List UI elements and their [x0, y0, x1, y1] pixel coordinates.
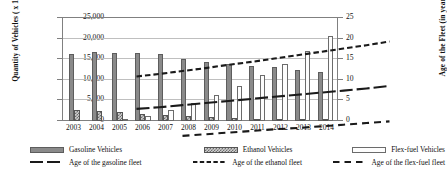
legend-label-ethanol-fleet-age: Age of the ethanol fleet — [232, 158, 302, 167]
y-axis-left-title: Quantity of Vehicles ( x 10^3 ) — [11, 0, 20, 88]
legend-item-flexfuel-fleet-age[interactable]: Age of the flex-fuel fleet — [333, 158, 445, 167]
plot-area — [62, 17, 338, 121]
x-tick-2012: 2012 — [269, 123, 292, 132]
bar-ethanol-2004 — [97, 111, 102, 121]
x-tick-2007: 2007 — [154, 123, 177, 132]
x-tick-2013: 2013 — [292, 123, 315, 132]
bar-ethanol-2003 — [74, 110, 79, 121]
trend-line-age-of-the-ethanol-fleet — [137, 41, 390, 76]
legend-item-flexfuel-vehicles[interactable]: Flex-fuel Vehicles — [352, 145, 445, 154]
bar-group-2004 — [86, 17, 109, 121]
legend-item-ethanol-vehicles[interactable]: Ethanol Vehicles — [204, 145, 352, 154]
legend-label-flexfuel-fleet-age: Age of the flex-fuel fleet — [372, 158, 445, 167]
legend-label-gasoline-fleet-age: Age of the gasoline fleet — [69, 158, 142, 167]
legend-swatch-flexfuel-icon — [352, 147, 386, 153]
x-tick-2008: 2008 — [177, 123, 200, 132]
bar-group-2003 — [63, 17, 86, 121]
legend-item-gasoline-vehicles[interactable]: Gasoline Vehicles — [30, 145, 204, 154]
y-axis-right-title: Age of the Fleet (in years) — [438, 0, 447, 89]
x-tick-2006: 2006 — [131, 123, 154, 132]
x-tick-2014: 2014 — [315, 123, 338, 132]
x-tick-2010: 2010 — [223, 123, 246, 132]
trend-line-age-of-the-gasoline-fleet — [137, 86, 390, 109]
x-tick-2009: 2009 — [200, 123, 223, 132]
legend-line-gasoline-icon — [30, 159, 64, 165]
x-tick-2004: 2004 — [85, 123, 108, 132]
x-tick-2011: 2011 — [246, 123, 269, 132]
legend-swatch-gasoline-icon — [30, 147, 64, 153]
legend-item-ethanol-fleet-age[interactable]: Age of the ethanol fleet — [193, 158, 332, 167]
legend-line-ethanol-icon — [193, 159, 227, 165]
x-axis-labels: 2003200420052006200720082009201020112012… — [62, 123, 338, 132]
legend-item-gasoline-fleet-age[interactable]: Age of the gasoline fleet — [30, 158, 193, 167]
y-right-tick-25: 25 — [346, 13, 372, 21]
legend-label-flexfuel-vehicles: Flex-fuel Vehicles — [391, 145, 445, 154]
legend-label-gasoline-vehicles: Gasoline Vehicles — [69, 145, 122, 154]
x-tick-2005: 2005 — [108, 123, 131, 132]
legend-line-flexfuel-icon — [333, 159, 367, 165]
legend-label-ethanol-vehicles: Ethanol Vehicles — [243, 145, 293, 154]
legend-swatch-ethanol-icon — [204, 147, 238, 153]
bar-gasoline-2005 — [112, 53, 117, 121]
x-tick-2003: 2003 — [62, 123, 85, 132]
chart-legend: Gasoline Vehicles Ethanol Vehicles Flex-… — [30, 145, 445, 170]
